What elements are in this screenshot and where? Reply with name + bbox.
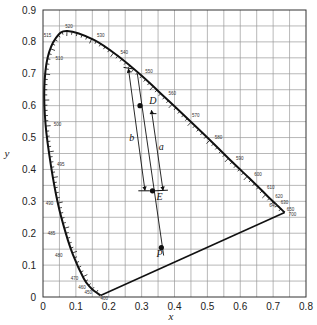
x-tick-label: 0.8 [299, 301, 313, 312]
wavelength-label: 540 [121, 50, 129, 55]
y-tick-label: 0.2 [22, 228, 36, 239]
x-tick-label: 0.1 [69, 301, 83, 312]
wavelength-label: 580 [215, 135, 223, 140]
x-tick-label: 0.5 [200, 301, 214, 312]
spectral-locus-curve [44, 31, 284, 295]
wavelength-tick [244, 176, 247, 180]
point-e [150, 188, 155, 193]
wavelength-label: 620 [275, 194, 283, 199]
wavelength-tick [90, 39, 92, 44]
y-axis-label: y [4, 147, 10, 159]
wavelength-label: 490 [46, 201, 54, 206]
y-tick-label: 0 [30, 292, 36, 303]
grid-lines [43, 10, 306, 297]
wavelength-tick [54, 182, 57, 183]
y-tick-label: 0.6 [22, 100, 36, 111]
wavelength-label: 500 [54, 122, 62, 127]
wavelength-tick [55, 187, 58, 188]
wavelength-label: 485 [48, 231, 56, 236]
y-tick-label: 0.3 [22, 196, 36, 207]
y-tick-label: 0.4 [22, 164, 36, 175]
wavelength-label: 700 [289, 212, 297, 217]
y-tick-label: 0.5 [22, 132, 36, 143]
wavelength-tick [225, 158, 229, 162]
wavelength-tick [111, 53, 114, 57]
wavelength-label: 590 [236, 156, 244, 161]
wavelength-label: 480 [55, 253, 63, 258]
wavelength-label: 630 [281, 200, 289, 205]
point-d [137, 103, 142, 108]
x-tick-label: 0.3 [135, 301, 149, 312]
dimension-arrow-b [128, 69, 144, 190]
y-tick-label: 0.7 [22, 68, 36, 79]
wavelength-label: 515 [44, 33, 52, 38]
wavelength-tick [262, 194, 266, 197]
label-d: D [148, 95, 157, 106]
wavelength-label: 600 [254, 172, 262, 177]
wavelength-label: 570 [192, 113, 200, 118]
label-e: E [155, 191, 162, 202]
chromaticity-diagram: 00.10.20.30.40.50.60.70.8 00.10.20.30.40… [0, 0, 317, 325]
y-tick-label: 0.1 [22, 260, 36, 271]
wavelength-label: 495 [57, 162, 65, 167]
wavelength-label: 400 [101, 296, 109, 301]
label-a: a [159, 141, 164, 152]
wavelength-label: 550 [145, 69, 153, 74]
wavelength-label: 460 [78, 285, 86, 290]
x-tick-label: 0.7 [266, 301, 280, 312]
x-tick-label: 0.6 [233, 301, 247, 312]
x-axis-ticks: 00.10.20.30.40.50.60.70.8 [40, 301, 313, 312]
wavelength-tick [56, 192, 59, 193]
wavelength-label: 640 [269, 203, 277, 208]
wavelength-labels: 4004504604704804854904955005105155205305… [44, 24, 297, 301]
label-p: P [155, 248, 162, 259]
wavelength-tick-marks [44, 31, 281, 292]
spectral-locus [44, 31, 284, 295]
wavelength-tick [131, 69, 134, 73]
wavelength-label: 520 [65, 24, 73, 29]
wavelength-label: 610 [267, 185, 275, 190]
y-axis-ticks: 00.10.20.30.40.50.60.70.80.9 [22, 5, 36, 303]
construction-lines: DEPba [124, 67, 168, 259]
y-tick-label: 0.8 [22, 36, 36, 47]
wavelength-label: 470 [71, 276, 79, 281]
wavelength-label: 530 [97, 33, 105, 38]
wavelength-tick [206, 140, 209, 144]
x-axis-label: x [168, 310, 174, 322]
wavelength-label: 510 [56, 56, 64, 61]
wavelength-label: 560 [169, 91, 177, 96]
label-b: b [129, 132, 134, 143]
x-tick-label: 0.2 [102, 301, 116, 312]
wavelength-tick [169, 104, 172, 108]
x-tick-label: 0 [40, 301, 46, 312]
wavelength-label: 650 [287, 207, 295, 212]
wavelength-tick [83, 275, 87, 277]
wavelength-label: 450 [85, 290, 93, 295]
y-tick-label: 0.9 [22, 5, 36, 16]
